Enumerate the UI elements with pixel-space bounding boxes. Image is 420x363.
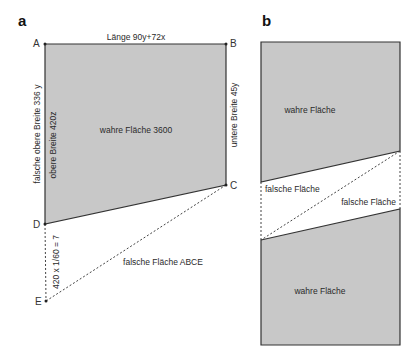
bottom-true-area-label: wahre Fläche — [293, 286, 345, 296]
diagram-canvas: a A B C D E Länge 90y+72x falsche obere … — [0, 0, 420, 363]
length-label: Länge 90y+72x — [107, 32, 166, 42]
false-upper-width-label: falsche obere Breite 336 y — [32, 84, 42, 184]
point-a: A — [33, 38, 40, 49]
point-a-marker — [44, 43, 47, 46]
lower-width-label: untere Breite 45y — [229, 82, 239, 147]
bottom-true-area — [261, 209, 400, 345]
false-area-abce-label: falsche Fläche ABCE — [123, 257, 203, 267]
de-length-label: 420 x 1/60 = 7 — [51, 235, 61, 289]
point-c: C — [230, 180, 237, 191]
point-b: B — [230, 38, 237, 49]
true-area-label: wahre Fläche 3600 — [99, 125, 173, 135]
panel-a-label: a — [18, 12, 27, 29]
point-e: E — [35, 296, 42, 307]
false-area-left-label: falsche Fläche — [265, 184, 320, 194]
top-true-area-label: wahre Fläche — [283, 105, 335, 115]
false-area-right-label: falsche Fläche — [341, 197, 396, 207]
upper-width-label: obere Breite 420z — [48, 111, 58, 178]
point-d: D — [33, 219, 40, 230]
point-c-marker — [225, 184, 228, 187]
point-d-marker — [44, 223, 47, 226]
panel-b-label: b — [262, 12, 271, 29]
de-dashed-line — [45, 224, 46, 301]
point-e-marker — [45, 300, 48, 303]
point-b-marker — [225, 43, 228, 46]
